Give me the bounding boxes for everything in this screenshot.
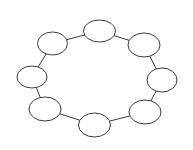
node-ellipse — [128, 33, 160, 57]
node-n7 — [17, 66, 47, 88]
node-ellipse — [17, 66, 47, 88]
node-ellipse — [79, 113, 111, 137]
nodes-group — [17, 20, 177, 137]
node-n4 — [129, 100, 161, 124]
node-ellipse — [38, 32, 68, 55]
node-n3 — [147, 68, 177, 92]
node-ellipse — [29, 97, 61, 121]
node-ellipse — [147, 68, 177, 92]
node-n2 — [128, 33, 160, 57]
node-n1 — [84, 20, 116, 42]
node-n6 — [29, 97, 61, 121]
node-ellipse — [129, 100, 161, 124]
ring-diagram — [0, 0, 193, 150]
node-n5 — [79, 113, 111, 137]
node-n8 — [38, 32, 68, 55]
node-ellipse — [84, 20, 116, 42]
